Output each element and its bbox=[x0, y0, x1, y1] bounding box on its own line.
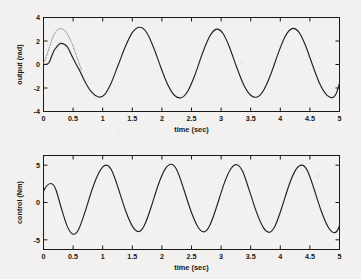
output-plot-y-ticks bbox=[44, 18, 340, 112]
svg-text:0: 0 bbox=[36, 60, 40, 69]
control-plot-ylabel: control (Nm) bbox=[15, 181, 24, 224]
svg-text:3: 3 bbox=[219, 252, 223, 261]
svg-text:0: 0 bbox=[42, 252, 46, 261]
output-plot-svg: 0 0.5 1 1.5 2 2.5 3 3.5 4 4.5 5 4 2 0 -2… bbox=[0, 0, 361, 140]
output-plot-ylabel: output (rad) bbox=[15, 44, 24, 85]
svg-text:2: 2 bbox=[160, 114, 164, 123]
svg-text:4: 4 bbox=[278, 252, 282, 261]
svg-text:3.5: 3.5 bbox=[246, 252, 256, 261]
svg-text:2: 2 bbox=[160, 252, 164, 261]
svg-text:1: 1 bbox=[101, 252, 105, 261]
svg-text:2.5: 2.5 bbox=[187, 114, 197, 123]
svg-text:3.5: 3.5 bbox=[246, 114, 256, 123]
matlab-figure-two-plots: 0 0.5 1 1.5 2 2.5 3 3.5 4 4.5 5 4 2 0 -2… bbox=[0, 0, 361, 279]
svg-text:-2: -2 bbox=[34, 84, 40, 93]
svg-text:4: 4 bbox=[36, 13, 40, 22]
svg-text:5: 5 bbox=[338, 114, 342, 123]
svg-text:4.5: 4.5 bbox=[305, 114, 315, 123]
svg-text:2.5: 2.5 bbox=[187, 252, 197, 261]
control-plot-x-ticklabels: 0 0.5 1 1.5 2 2.5 3 3.5 4 4.5 5 bbox=[42, 252, 342, 261]
output-plot-x-ticklabels: 0 0.5 1 1.5 2 2.5 3 3.5 4 4.5 5 bbox=[42, 114, 342, 123]
output-plot-axes-box bbox=[44, 18, 340, 112]
output-plot-x-ticks bbox=[44, 18, 340, 112]
control-plot-svg: 0 0.5 1 1.5 2 2.5 3 3.5 4 4.5 5 5 0 -5 t… bbox=[0, 139, 361, 279]
svg-text:0.5: 0.5 bbox=[68, 114, 78, 123]
svg-text:0: 0 bbox=[42, 114, 46, 123]
control-curve bbox=[44, 164, 340, 234]
svg-text:1.5: 1.5 bbox=[127, 252, 137, 261]
control-plot-panel: 0 0.5 1 1.5 2 2.5 3 3.5 4 4.5 5 5 0 -5 t… bbox=[0, 139, 361, 279]
control-plot-y-ticklabels: 5 0 -5 bbox=[34, 161, 40, 245]
svg-text:1: 1 bbox=[101, 114, 105, 123]
svg-text:-5: -5 bbox=[34, 236, 40, 245]
svg-text:5: 5 bbox=[338, 252, 342, 261]
output-response-curve bbox=[44, 27, 340, 98]
svg-text:0.5: 0.5 bbox=[68, 252, 78, 261]
control-plot-xlabel: time (sec) bbox=[174, 263, 209, 272]
svg-text:0: 0 bbox=[36, 198, 40, 207]
output-plot-y-ticklabels: 4 2 0 -2 -4 bbox=[34, 13, 40, 116]
svg-text:3: 3 bbox=[219, 114, 223, 123]
svg-text:2: 2 bbox=[36, 37, 40, 46]
svg-text:1.5: 1.5 bbox=[127, 114, 137, 123]
svg-text:5: 5 bbox=[36, 161, 40, 170]
svg-text:4: 4 bbox=[278, 114, 282, 123]
svg-text:-4: -4 bbox=[34, 107, 40, 116]
svg-text:4.5: 4.5 bbox=[305, 252, 315, 261]
output-plot-xlabel: time (sec) bbox=[174, 125, 209, 134]
output-plot-panel: 0 0.5 1 1.5 2 2.5 3 3.5 4 4.5 5 4 2 0 -2… bbox=[0, 0, 361, 140]
